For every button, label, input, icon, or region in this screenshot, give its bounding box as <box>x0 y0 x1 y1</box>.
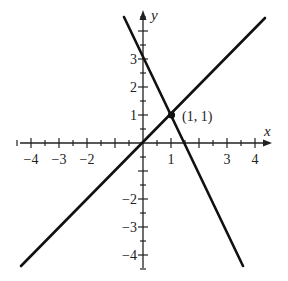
y-tick-label: −4 <box>122 248 137 263</box>
intersection-label: (1, 1) <box>182 109 213 125</box>
y-axis-arrow-icon <box>140 10 147 20</box>
x-axis-label: x <box>263 123 271 139</box>
x-tick-labels: −4−3−2134 <box>24 152 259 167</box>
x-axis-arrow-icon <box>263 140 272 147</box>
x-tick-label: 1 <box>168 152 175 167</box>
y-axis-label: y <box>149 7 158 23</box>
y-tick-label: −2 <box>122 192 137 207</box>
x-tick-label: 4 <box>252 152 259 167</box>
x-tick-label: −2 <box>80 152 95 167</box>
x-tick-label: −4 <box>24 152 39 167</box>
coordinate-plane: −4−3−2134 321−2−3−4 x y (1, 1) <box>0 0 288 281</box>
y-tick-label: 3 <box>130 52 137 67</box>
y-tick-label: −3 <box>122 220 137 235</box>
x-tick-label: −3 <box>52 152 67 167</box>
y-tick-label: 1 <box>130 108 137 123</box>
x-tick-label: 3 <box>224 152 231 167</box>
y-tick-label: 2 <box>130 80 137 95</box>
intersection-point <box>168 111 175 118</box>
